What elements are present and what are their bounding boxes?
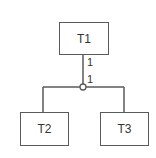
- node-t2[interactable]: T2: [20, 112, 69, 146]
- cardinality-source-label: 1: [87, 57, 93, 68]
- node-t3[interactable]: T3: [100, 112, 149, 146]
- junction-circle-icon: [80, 84, 86, 90]
- cardinality-target-label: 1: [87, 74, 93, 85]
- node-t1[interactable]: T1: [59, 22, 109, 55]
- node-t3-label: T3: [117, 122, 131, 136]
- node-t2-label: T2: [37, 122, 51, 136]
- node-t1-label: T1: [77, 32, 91, 46]
